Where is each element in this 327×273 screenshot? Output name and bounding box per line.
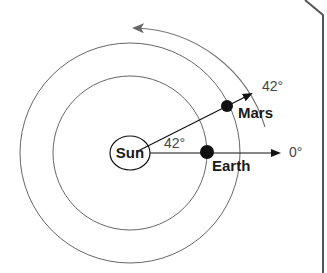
page-border — [305, 0, 323, 273]
sun-angle-label: 42° — [164, 135, 185, 151]
mars-label: Mars — [238, 104, 273, 121]
mars-angle-label: 42° — [262, 78, 283, 94]
zero-angle-label: 0° — [289, 144, 302, 160]
sun-to-mars-line — [138, 94, 251, 151]
sun-label: Sun — [116, 144, 144, 161]
mars-dot — [221, 100, 233, 112]
earth-label: Earth — [212, 157, 250, 174]
orbit-diagram: Sun Mars Earth 42° 42° 0° — [0, 0, 327, 273]
